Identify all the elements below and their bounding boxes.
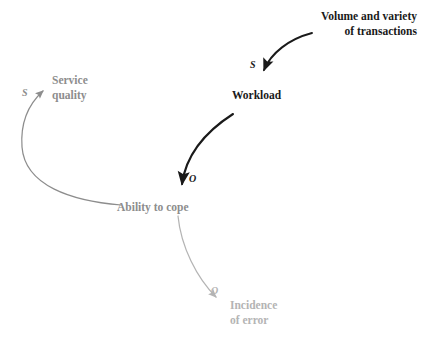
node-ability-to-cope-line1: Ability to cope (117, 200, 189, 215)
polarity-workload-to-ability: O (189, 173, 196, 184)
node-incidence-of-error: Incidence of error (230, 298, 277, 328)
node-workload: Workload (232, 88, 281, 103)
node-workload-line1: Workload (232, 88, 281, 103)
link-transactions-to-workload (264, 33, 312, 70)
node-incidence-of-error-line2: of error (230, 313, 277, 328)
node-service-quality-line1: Service (52, 73, 88, 88)
node-ability-to-cope: Ability to cope (117, 200, 189, 215)
link-ability-to-service-quality (22, 91, 121, 205)
node-transactions-line2: of transactions (321, 24, 417, 39)
polarity-transactions-to-workload: S (250, 59, 256, 70)
node-incidence-of-error-line1: Incidence (230, 298, 277, 313)
polarity-ability-to-incidence: O (211, 285, 218, 296)
node-service-quality: Service quality (52, 73, 88, 103)
causal-loop-diagram: Volume and variety of transactions Workl… (0, 0, 428, 347)
polarity-ability-to-service-quality: S (22, 87, 28, 98)
node-service-quality-line2: quality (52, 88, 88, 103)
node-transactions: Volume and variety of transactions (321, 9, 417, 39)
node-transactions-line1: Volume and variety (321, 9, 417, 24)
